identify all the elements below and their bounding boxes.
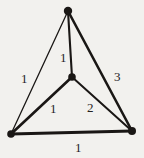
graph-node-center <box>68 73 76 81</box>
edge-weight-label-top-center: 1 <box>60 51 67 64</box>
graph-node-top <box>64 7 72 15</box>
weighted-graph-figure: 113121 <box>0 0 144 158</box>
graph-node-bottom-right <box>128 127 136 135</box>
graph-edge-top-bottom-left <box>11 11 68 134</box>
edge-weight-label-center-bottom-left: 1 <box>50 102 57 115</box>
edge-weight-label-bottom-left-right: 1 <box>75 141 82 154</box>
edge-weight-label-top-bottom-left: 1 <box>21 72 28 85</box>
graph-edge-top-bottom-right <box>68 11 132 131</box>
graph-edge-top-center <box>68 11 72 77</box>
edge-weight-label-center-bottom-right: 2 <box>87 101 94 114</box>
graph-edge-center-bottom-right <box>72 77 132 131</box>
edge-weight-label-top-bottom-right: 3 <box>114 70 121 83</box>
graph-edge-bottom-left-right <box>11 131 132 134</box>
graph-node-bottom-left <box>7 130 15 138</box>
